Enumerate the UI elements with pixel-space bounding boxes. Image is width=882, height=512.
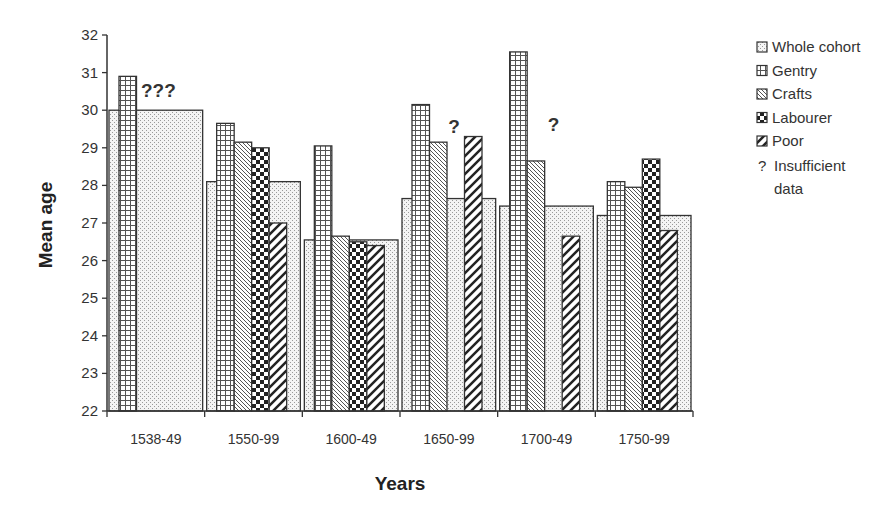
x-tick-label: 1750-99 <box>618 431 670 447</box>
bar-chart: ????? 22232425262728293031321538-491550-… <box>0 0 882 512</box>
bar-poor <box>660 231 678 411</box>
bar-crafts <box>234 142 252 411</box>
bar-poor <box>465 137 483 411</box>
legend-label: Labourer <box>772 109 832 126</box>
y-axis-title: Mean age <box>35 182 56 269</box>
bar-group-1550-99 <box>207 123 301 411</box>
x-tick-label: 1600-49 <box>325 431 377 447</box>
legend-label: Crafts <box>772 85 812 102</box>
bar-group-1750-99 <box>597 159 691 411</box>
legend-swatch-dots <box>757 42 767 52</box>
bars-layer: ????? <box>109 52 691 411</box>
bar-labourer <box>642 159 660 411</box>
legend-label: Poor <box>772 132 804 149</box>
legend-item: Whole cohort <box>757 38 861 55</box>
bar-gentry <box>119 76 137 411</box>
legend-swatch-diag-wide <box>757 136 767 146</box>
y-tick-label: 28 <box>81 176 98 193</box>
bar-poor <box>367 246 385 411</box>
bar-labourer <box>349 242 367 411</box>
chart-container: ????? 22232425262728293031321538-491550-… <box>0 0 882 512</box>
x-tick-label: 1700-49 <box>521 431 573 447</box>
insufficient-data-marker: ? <box>448 116 460 137</box>
bar-poor <box>562 236 580 411</box>
y-tick-label: 27 <box>81 214 98 231</box>
y-tick-label: 29 <box>81 139 98 156</box>
legend-item: Labourer <box>757 109 832 126</box>
bar-gentry <box>314 146 332 411</box>
legend: Whole cohortGentryCraftsLabourerPoor?Ins… <box>757 38 861 197</box>
y-tick-label: 31 <box>81 64 98 81</box>
y-tick-label: 26 <box>81 252 98 269</box>
bar-gentry <box>217 123 235 411</box>
bar-poor <box>269 223 287 411</box>
bar-group-1600-49 <box>304 146 398 411</box>
bar-group-1650-99 <box>402 105 496 411</box>
legend-label: Whole cohort <box>772 38 861 55</box>
bar-crafts <box>625 187 643 411</box>
bar-group-1538-49 <box>109 76 203 411</box>
bar-crafts <box>527 161 545 411</box>
bar-group-1700-49 <box>500 52 594 411</box>
legend-label: Gentry <box>772 62 818 79</box>
legend-label-line2: data <box>774 180 804 197</box>
x-axis-title: Years <box>375 473 426 494</box>
y-tick-label: 30 <box>81 101 98 118</box>
y-tick-label: 23 <box>81 364 98 381</box>
x-tick-label: 1650-99 <box>423 431 475 447</box>
x-tick-label: 1550-99 <box>228 431 280 447</box>
legend-swatch-grid <box>757 66 767 76</box>
legend-swatch-checker <box>757 113 767 123</box>
legend-item: Poor <box>757 132 804 149</box>
insufficient-data-marker: ? <box>548 114 560 135</box>
legend-item: Crafts <box>757 85 812 102</box>
legend-label: Insufficient <box>774 157 846 174</box>
y-tick-label: 22 <box>81 402 98 419</box>
bar-gentry <box>510 52 527 411</box>
legend-item: ?Insufficientdata <box>758 157 846 198</box>
insufficient-data-marker: ??? <box>141 80 176 101</box>
legend-swatch-diag-fine <box>757 89 767 99</box>
legend-item: Gentry <box>757 62 818 79</box>
y-tick-label: 24 <box>81 327 98 344</box>
question-mark-icon: ? <box>758 157 766 174</box>
bar-crafts <box>430 142 448 411</box>
bar-crafts <box>332 236 350 411</box>
x-tick-label: 1538-49 <box>130 431 182 447</box>
bar-gentry <box>607 182 625 411</box>
y-tick-label: 32 <box>81 26 98 43</box>
bar-gentry <box>412 105 430 411</box>
y-tick-label: 25 <box>81 289 98 306</box>
bar-labourer <box>252 148 270 411</box>
